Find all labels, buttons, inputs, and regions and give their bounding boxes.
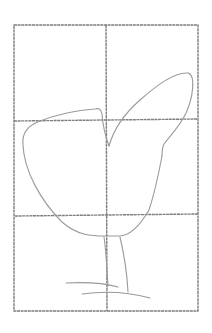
sketch-drawing bbox=[0, 0, 212, 333]
ground-line-upper bbox=[66, 283, 118, 287]
bird-sketch bbox=[23, 73, 193, 298]
back-leg bbox=[120, 237, 128, 292]
body-outline bbox=[23, 109, 162, 236]
wing-outline bbox=[109, 73, 193, 156]
sketch-canvas bbox=[0, 0, 212, 333]
drawing-grid bbox=[14, 25, 198, 311]
grid-horizontal-divider-bottom bbox=[15, 214, 198, 216]
ground-line-lower bbox=[82, 292, 150, 298]
